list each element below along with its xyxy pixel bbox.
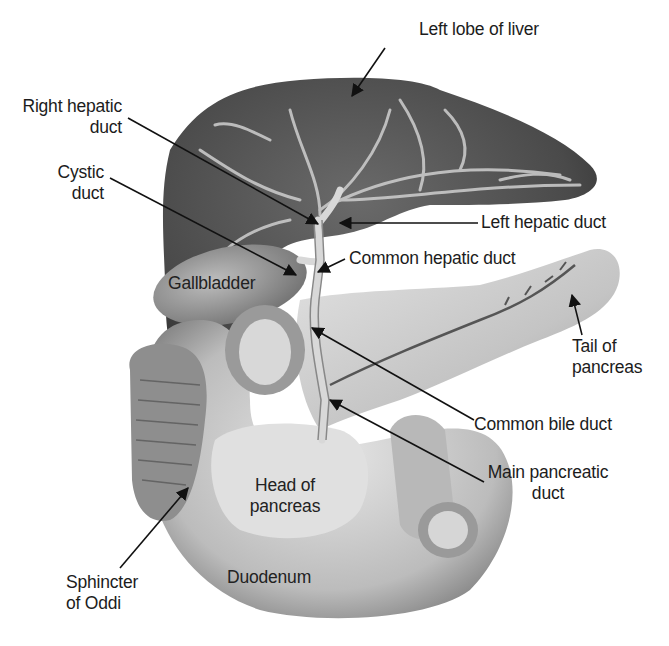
label-line: Tail of <box>572 336 642 357</box>
label-head-of-pancreas: Head of pancreas <box>240 475 330 517</box>
label-main-pancreatic-duct: Main pancreatic duct <box>483 462 613 504</box>
label-line: Cystic <box>40 162 104 183</box>
label-line: pancreas <box>240 496 330 517</box>
label-line: Head of <box>240 475 330 496</box>
label-left-hepatic-duct: Left hepatic duct <box>481 212 606 233</box>
label-common-bile-duct: Common bile duct <box>474 414 612 435</box>
label-right-hepatic-duct: Right hepatic duct <box>10 96 122 138</box>
label-line: duct <box>10 117 122 138</box>
label-line: duct <box>40 183 104 204</box>
label-line: Right hepatic <box>10 96 122 117</box>
label-line: pancreas <box>572 357 642 378</box>
anatomy-figure: Left lobe of liver Right hepatic duct Cy… <box>0 0 669 646</box>
label-sphincter-of-oddi: Sphincter of Oddi <box>66 572 138 614</box>
label-cystic-duct: Cystic duct <box>40 162 104 204</box>
label-left-lobe-of-liver: Left lobe of liver <box>419 19 539 40</box>
label-line: of Oddi <box>66 593 138 614</box>
label-line: Sphincter <box>66 572 138 593</box>
label-line: Main pancreatic <box>483 462 613 483</box>
label-tail-of-pancreas: Tail of pancreas <box>572 336 642 378</box>
label-common-hepatic-duct: Common hepatic duct <box>349 248 515 269</box>
label-duodenum: Duodenum <box>227 567 311 588</box>
label-line: duct <box>483 483 613 504</box>
label-gallbladder: Gallbladder <box>168 273 255 294</box>
